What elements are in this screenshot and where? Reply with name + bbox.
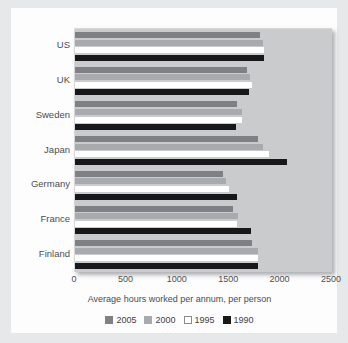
x-tick-label-2000: 2000 xyxy=(270,274,290,284)
bar-sweden-2005 xyxy=(75,101,237,107)
x-tick-label-1000: 1000 xyxy=(167,274,187,284)
bar-germany-1990 xyxy=(75,194,237,200)
bar-sweden-1995 xyxy=(75,117,242,123)
bar-us-1995 xyxy=(75,47,264,53)
bar-japan-2000 xyxy=(75,144,263,150)
category-label-germany: Germany xyxy=(11,178,70,189)
bar-us-2000 xyxy=(75,40,263,46)
bar-uk-1995 xyxy=(75,82,252,88)
legend-swatch-1990 xyxy=(223,316,231,324)
bar-group xyxy=(75,67,332,96)
legend-item-1990[interactable]: 1990 xyxy=(223,315,254,325)
bar-group xyxy=(75,32,332,61)
bars-container xyxy=(75,29,332,272)
bar-japan-2005 xyxy=(75,136,258,142)
bar-group xyxy=(75,206,332,235)
bar-us-2005 xyxy=(75,32,260,38)
bar-finland-1990 xyxy=(75,263,258,269)
legend-item-2000[interactable]: 2000 xyxy=(144,315,175,325)
x-tick-label-2500: 2500 xyxy=(321,274,341,284)
bar-group xyxy=(75,240,332,269)
legend-swatch-2005 xyxy=(105,316,113,324)
bar-us-1990 xyxy=(75,55,264,61)
bar-sweden-1990 xyxy=(75,124,236,130)
x-axis: 05001000150020002500 xyxy=(74,271,332,272)
x-tick-label-1500: 1500 xyxy=(218,274,238,284)
chart-legend: 2005200019951990 xyxy=(11,314,348,325)
x-tick-label-500: 500 xyxy=(118,274,133,284)
legend-item-2005[interactable]: 2005 xyxy=(105,315,136,325)
x-axis-title: Average hours worked per annum, per pers… xyxy=(11,294,348,304)
bar-group xyxy=(75,171,332,200)
category-label-finland: Finland xyxy=(11,248,70,259)
bar-sweden-2000 xyxy=(75,109,242,115)
bar-group xyxy=(75,101,332,130)
bar-france-2005 xyxy=(75,206,233,212)
bar-japan-1995 xyxy=(75,151,269,157)
legend-label-1995: 1995 xyxy=(195,315,215,325)
bar-uk-1990 xyxy=(75,89,249,95)
bar-france-1990 xyxy=(75,228,251,234)
legend-label-2005: 2005 xyxy=(116,315,136,325)
bar-finland-2005 xyxy=(75,240,252,246)
bar-japan-1990 xyxy=(75,159,287,165)
legend-item-1995[interactable]: 1995 xyxy=(184,315,215,325)
category-label-sweden: Sweden xyxy=(11,109,70,120)
legend-swatch-1995 xyxy=(184,316,192,324)
bar-uk-2005 xyxy=(75,67,247,73)
bar-france-1995 xyxy=(75,221,237,227)
bar-uk-2000 xyxy=(75,74,250,80)
bar-germany-2005 xyxy=(75,171,223,177)
bar-group xyxy=(75,136,332,165)
bar-finland-1995 xyxy=(75,255,258,261)
category-label-france: France xyxy=(11,213,70,224)
legend-swatch-2000 xyxy=(144,316,152,324)
x-tick-label-0: 0 xyxy=(71,274,76,284)
bar-chart: USUKSwedenJapanGermanyFranceFinland 0500… xyxy=(11,8,337,333)
page-background: USUKSwedenJapanGermanyFranceFinland 0500… xyxy=(0,0,348,343)
category-label-uk: UK xyxy=(11,74,70,85)
bar-finland-2000 xyxy=(75,248,258,254)
plot-area xyxy=(74,28,332,272)
legend-label-1990: 1990 xyxy=(234,315,254,325)
bar-france-2000 xyxy=(75,213,238,219)
legend-label-2000: 2000 xyxy=(155,315,175,325)
category-label-us: US xyxy=(11,39,70,50)
category-label-japan: Japan xyxy=(11,144,70,155)
bar-germany-2000 xyxy=(75,178,226,184)
bar-germany-1995 xyxy=(75,186,229,192)
